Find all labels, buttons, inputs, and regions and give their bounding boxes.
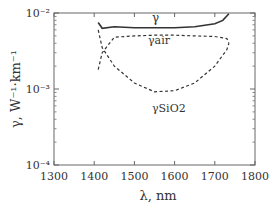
y-axis-label: γ, W⁻¹·km⁻¹ bbox=[8, 50, 23, 128]
chart: 130014001500160017001800 10⁻⁴10⁻³10⁻² λ,… bbox=[0, 0, 278, 213]
y-ticks: 10⁻⁴10⁻³10⁻² bbox=[26, 7, 255, 172]
svg-text:1800: 1800 bbox=[241, 170, 269, 183]
series-lines bbox=[98, 14, 229, 92]
annotation-gamma: γ bbox=[152, 11, 159, 25]
svg-text:1500: 1500 bbox=[120, 170, 148, 183]
x-axis-label: λ, nm bbox=[139, 188, 176, 203]
annotation-gamma-air: γair bbox=[148, 34, 171, 47]
annotation-gamma-sio2: γSiO2 bbox=[152, 102, 186, 115]
svg-text:1700: 1700 bbox=[201, 170, 229, 183]
svg-text:1600: 1600 bbox=[161, 170, 189, 183]
svg-text:1400: 1400 bbox=[80, 170, 108, 183]
svg-text:10⁻³: 10⁻³ bbox=[26, 83, 50, 96]
svg-text:10⁻²: 10⁻² bbox=[26, 7, 50, 20]
svg-text:10⁻⁴: 10⁻⁴ bbox=[26, 159, 51, 172]
